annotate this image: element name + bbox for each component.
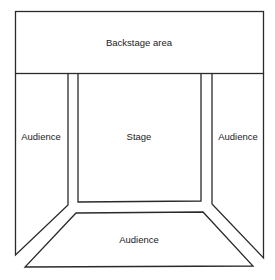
theatre-plan-diagram: Backstage area Audience Stage Audience A… bbox=[0, 0, 275, 280]
audience-left-region bbox=[16, 74, 69, 256]
backstage-area-label: Backstage area bbox=[106, 37, 173, 48]
audience-front-label: Audience bbox=[119, 234, 159, 245]
stage-label: Stage bbox=[127, 131, 152, 142]
audience-left-label: Audience bbox=[21, 131, 61, 142]
audience-right-label: Audience bbox=[218, 131, 258, 142]
